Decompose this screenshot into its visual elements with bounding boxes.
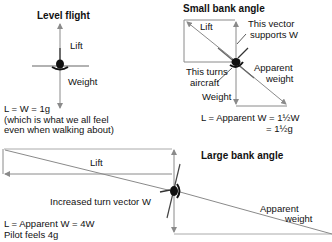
turns-label-line2: aircraft	[190, 77, 219, 88]
level-flight-title: Level flight	[37, 10, 90, 21]
turns-label-line1: This turns	[186, 66, 228, 77]
level-note-line2: even when walking about)	[4, 124, 114, 135]
supports-label-line1: This vector	[248, 18, 294, 29]
small-weight-label: Weight	[202, 91, 231, 102]
level-lift-label: Lift	[70, 40, 83, 51]
large-pilot-note: Pilot feels 4g	[4, 229, 58, 240]
supports-label-line2: supports W	[250, 29, 298, 40]
small-lift-label: Lift	[200, 21, 213, 32]
supports-pointer	[237, 34, 246, 44]
large-lift-vector	[5, 150, 172, 191]
aircraft-large-bank-icon	[160, 164, 180, 218]
level-equation: L = W = 1g	[4, 103, 50, 114]
small-equation-line1: L = Apparent W = 1½W	[201, 112, 299, 123]
large-turn-label: Increased turn vector W	[50, 196, 151, 207]
large-lift-label: Lift	[90, 157, 103, 168]
large-bank-title: Large bank angle	[201, 150, 283, 161]
level-weight-label: Weight	[68, 76, 97, 87]
aircraft-level-icon	[32, 48, 89, 70]
level-flight-diagram	[32, 24, 89, 108]
small-equation-line2: = 1½g	[266, 123, 293, 134]
small-bank-title: Small bank angle	[183, 3, 265, 14]
large-apparent-label-line2: weight	[285, 213, 312, 224]
small-apparent-label-line1: Apparent	[254, 62, 293, 73]
small-apparent-label-line2: weight	[266, 73, 293, 84]
large-equation: L = Apparent W = 4W	[4, 218, 94, 229]
